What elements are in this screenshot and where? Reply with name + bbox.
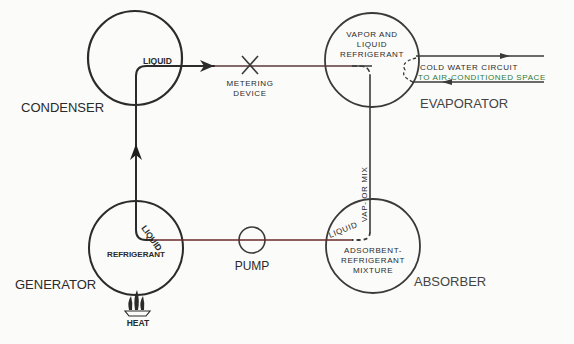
absorber-label: ABSORBER (414, 274, 486, 289)
evaporator-inner-line2: LIQUID (357, 40, 387, 49)
pump-label: PUMP (235, 259, 270, 273)
cold-water-coil (404, 58, 416, 82)
arrow-right-icon (500, 53, 510, 59)
vapor-mix-label: VAP- OR MIX (360, 167, 369, 222)
absorber-inner-line2: REFRIGERANT (341, 256, 405, 265)
evaporator-label: EVAPORATOR (420, 96, 508, 111)
condenser-liquid-label: LIQUID (143, 56, 172, 66)
condenser-label: CONDENSER (21, 100, 104, 115)
heat-label: HEAT (127, 318, 150, 328)
generator-liquid-label: LIQUID (139, 223, 164, 252)
metering-device-icon (242, 56, 258, 74)
evaporator-circle (325, 13, 419, 107)
generator-label: GENERATOR (15, 277, 96, 292)
evaporator-inner-line3: REFRIGERANT (340, 50, 404, 59)
evaporator-inner-curve (352, 66, 370, 76)
metering-label-line2: DEVICE (233, 89, 266, 98)
evaporator-inner-line1: VAPOR AND (346, 30, 398, 39)
metering-label-line1: METERING (226, 79, 273, 88)
absorber-inner-line1: ADSORBENT- (344, 246, 402, 255)
cold-water-line2: TO AIR-CONDITIONED SPACE (418, 73, 546, 82)
cold-water-line1: COLD WATER CIRCUIT (420, 63, 518, 72)
absorption-cycle-diagram: LIQUID CONDENSER METERING DEVICE VAPOR A… (0, 0, 574, 344)
absorber-inner-curve (352, 232, 370, 240)
absorber-inner-line3: MIXTURE (353, 266, 393, 275)
generator-inner-label: REFRIGERANT (107, 250, 165, 259)
